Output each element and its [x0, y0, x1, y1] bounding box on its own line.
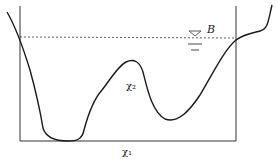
inner-region-label: χ₂ — [126, 80, 136, 91]
water-level-label: B — [206, 23, 215, 36]
water-level-line — [20, 37, 236, 38]
container-outline — [20, 6, 236, 141]
diagram-canvas: B χ₂ χ₁ — [0, 0, 277, 162]
terrain-curve — [7, 5, 272, 141]
water-level-icon — [188, 31, 202, 50]
bottom-label: χ₁ — [122, 146, 132, 157]
